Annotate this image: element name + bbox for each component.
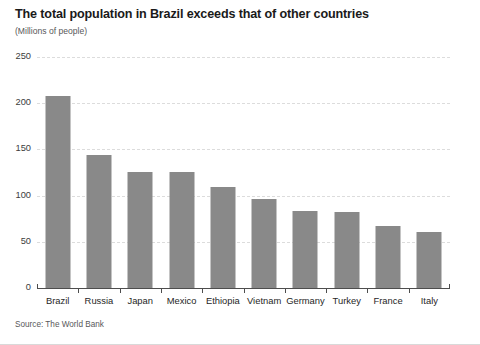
x-axis-label-brazil: Brazil bbox=[37, 295, 78, 306]
bar[interactable] bbox=[210, 187, 235, 288]
x-axis-tick bbox=[161, 288, 162, 293]
bar-slot bbox=[285, 57, 326, 288]
y-axis-tick-label: 150 bbox=[5, 144, 31, 153]
bar[interactable] bbox=[128, 172, 153, 288]
x-axis-tick bbox=[120, 288, 121, 293]
x-axis-label-ethiopia: Ethiopia bbox=[202, 295, 243, 306]
bar[interactable] bbox=[86, 155, 111, 288]
x-axis-label-germany: Germany bbox=[285, 295, 326, 306]
bar-slot bbox=[202, 57, 243, 288]
y-axis-tick-label: 200 bbox=[5, 98, 31, 107]
y-axis-tick-labels: 250200150100500 bbox=[0, 57, 31, 288]
chart-subtitle: (Millions of people) bbox=[15, 26, 87, 36]
y-axis-tick-label: 250 bbox=[5, 52, 31, 61]
x-axis-label-france: France bbox=[367, 295, 408, 306]
bar-slot bbox=[326, 57, 367, 288]
x-axis-right-cap bbox=[449, 284, 450, 289]
x-axis-tick bbox=[244, 288, 245, 293]
x-axis-tick bbox=[409, 288, 410, 293]
chart-title: The total population in Brazil exceeds t… bbox=[15, 7, 369, 21]
y-axis-tick-label: 0 bbox=[5, 283, 31, 292]
bar-slot bbox=[37, 57, 78, 288]
bar[interactable] bbox=[417, 232, 442, 288]
x-axis-tick bbox=[202, 288, 203, 293]
bar[interactable] bbox=[334, 212, 359, 288]
x-axis-label-turkey: Turkey bbox=[326, 295, 367, 306]
x-axis-tick bbox=[367, 288, 368, 293]
source-note: Source: The World Bank bbox=[15, 320, 104, 329]
x-axis-category-labels: BrazilRussiaJapanMexicoEthiopiaVietnamGe… bbox=[37, 295, 450, 311]
x-axis-tick bbox=[78, 288, 79, 293]
bar-slot bbox=[244, 57, 285, 288]
y-axis-tick-label: 50 bbox=[5, 237, 31, 246]
x-axis-label-japan: Japan bbox=[120, 295, 161, 306]
y-axis-tick-label: 100 bbox=[5, 191, 31, 200]
bar[interactable] bbox=[169, 172, 194, 288]
bar[interactable] bbox=[376, 226, 401, 288]
x-axis-label-vietnam: Vietnam bbox=[244, 295, 285, 306]
bar-slot bbox=[367, 57, 408, 288]
x-axis-tick bbox=[285, 288, 286, 293]
x-axis-left-cap bbox=[37, 284, 38, 289]
bar-slot bbox=[409, 57, 450, 288]
chart-figure: The total population in Brazil exceeds t… bbox=[0, 0, 480, 345]
bar[interactable] bbox=[252, 199, 277, 288]
bar-series bbox=[37, 57, 450, 288]
bar[interactable] bbox=[45, 96, 70, 288]
bar-slot bbox=[161, 57, 202, 288]
x-axis-label-italy: Italy bbox=[409, 295, 450, 306]
bar-slot bbox=[78, 57, 119, 288]
bar[interactable] bbox=[293, 211, 318, 288]
x-axis-label-russia: Russia bbox=[78, 295, 119, 306]
x-axis-tick bbox=[326, 288, 327, 293]
bar-slot bbox=[120, 57, 161, 288]
x-axis-label-mexico: Mexico bbox=[161, 295, 202, 306]
